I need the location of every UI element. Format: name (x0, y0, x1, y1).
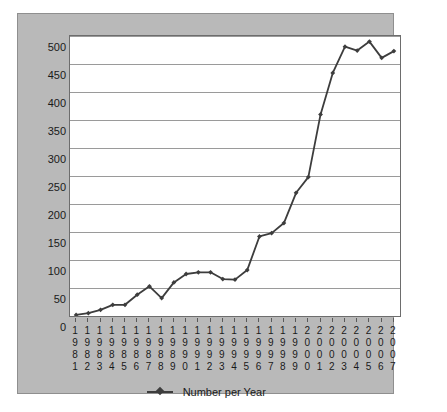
x-axis-tick (173, 318, 174, 322)
y-axis-tick-label: 450 (48, 70, 66, 81)
x-axis-tick (344, 318, 345, 322)
y-axis-tick-label: 150 (48, 238, 66, 249)
x-axis-tick (148, 318, 149, 322)
x-axis-label-digit: 0 (386, 337, 400, 349)
x-axis-tick (258, 318, 259, 322)
x-axis-tick (356, 318, 357, 322)
x-axis-tick (307, 318, 308, 322)
x-axis-label-digit: 7 (386, 361, 400, 373)
x-axis-tick (234, 318, 235, 322)
chart-panel: 500450400350300250200150100500 198119821… (17, 13, 394, 394)
x-axis-tick-label: 2007 (386, 325, 400, 373)
x-axis-tick (381, 318, 382, 322)
chart-legend: Number per Year (18, 382, 395, 400)
y-axis-tick-label: 500 (48, 42, 66, 53)
x-axis-tick (210, 318, 211, 322)
x-axis-tick (271, 318, 272, 322)
x-axis-tick (161, 318, 162, 322)
x-axis-tick (283, 318, 284, 322)
x-axis-tick (197, 318, 198, 322)
data-point-marker (110, 302, 115, 307)
y-axis-tick-label: 250 (48, 182, 66, 193)
x-axis-tick (112, 318, 113, 322)
x-axis-tick (320, 318, 321, 322)
x-axis-tick (124, 318, 125, 322)
series-line (76, 42, 394, 315)
x-axis-label-digit: 2 (386, 325, 400, 337)
x-axis-tick (100, 318, 101, 322)
y-axis: 500450400350300250200150100500 (35, 27, 69, 317)
y-axis-tick-label: 300 (48, 154, 66, 165)
chart-container: 500450400350300250200150100500 198119821… (0, 0, 447, 412)
data-point-marker (318, 112, 323, 117)
x-axis-tick (246, 318, 247, 322)
x-axis-tick (136, 318, 137, 322)
data-point-marker (74, 312, 79, 316)
x-axis: 1981198219831984198519861987198819891990… (18, 325, 395, 377)
x-axis-label-digit: 0 (386, 349, 400, 361)
legend-label: Number per Year (178, 386, 266, 398)
x-axis-tick (222, 318, 223, 322)
data-point-marker (98, 307, 103, 312)
x-axis-tick (393, 318, 394, 322)
y-axis-tick-label: 400 (48, 98, 66, 109)
data-point-marker (196, 270, 201, 275)
data-point-marker (257, 234, 262, 239)
x-axis-tick (87, 318, 88, 322)
line-series-number-per-year (70, 36, 400, 316)
y-axis-tick-label: 50 (54, 294, 66, 305)
y-axis-tick-label: 100 (48, 266, 66, 277)
data-point-marker (86, 311, 91, 316)
x-axis-tick (185, 318, 186, 322)
y-axis-tick-label: 350 (48, 126, 66, 137)
y-axis-tick-label: 200 (48, 210, 66, 221)
legend-marker-icon (147, 387, 173, 396)
x-axis-tick (332, 318, 333, 322)
plot-area (69, 35, 401, 317)
x-axis-tick (295, 318, 296, 322)
x-axis-tick (368, 318, 369, 322)
x-axis-tick (75, 318, 76, 322)
